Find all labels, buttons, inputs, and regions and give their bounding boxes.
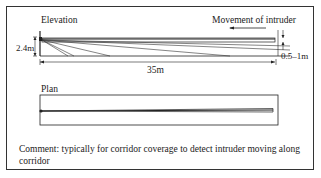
width-label: 0.5–1m: [281, 52, 308, 61]
detector-icon: [39, 37, 42, 41]
length-label: 35m: [147, 66, 164, 76]
elevation-view: [33, 27, 290, 66]
elevation-title: Elevation: [41, 16, 77, 26]
plan-view: [39, 95, 278, 125]
plan-title: Plan: [41, 85, 58, 95]
beam-6: [42, 40, 68, 56]
comment-text: Comment: typically for corridor coverage…: [19, 143, 304, 167]
height-label: 2.4m: [16, 44, 34, 53]
movement-label: Movement of intruder: [212, 16, 296, 26]
